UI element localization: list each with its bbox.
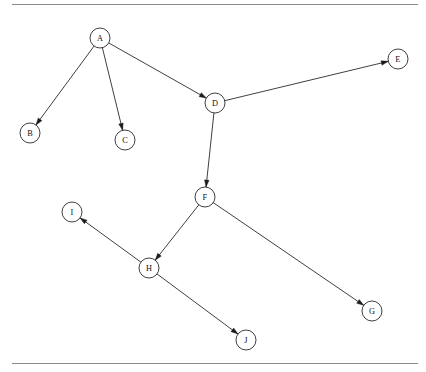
node-E[interactable]: E	[388, 49, 408, 69]
arrowhead-H-I	[80, 218, 87, 224]
edge-D-F	[206, 113, 214, 187]
node-label-B: B	[27, 129, 33, 138]
arrowhead-F-H	[155, 253, 161, 260]
arrowhead-F-G	[357, 300, 364, 306]
edge-A-D	[109, 43, 207, 98]
graph-svg: ABCDEFGHIJ	[0, 0, 426, 372]
node-label-J: J	[244, 336, 248, 345]
node-label-G: G	[369, 307, 375, 316]
node-J[interactable]: J	[236, 330, 256, 350]
node-label-E: E	[395, 55, 400, 64]
edge-A-B	[36, 46, 94, 125]
horizontal-rules-layer	[12, 5, 418, 364]
edge-F-G	[213, 203, 363, 306]
arrowhead-H-J	[231, 328, 238, 334]
nodes-layer: ABCDEFGHIJ	[20, 28, 408, 350]
arrowhead-A-C	[119, 123, 123, 130]
node-label-H: H	[146, 264, 152, 273]
edge-F-H	[155, 205, 199, 260]
node-I[interactable]: I	[62, 202, 82, 222]
diagram-canvas: ABCDEFGHIJ	[0, 0, 426, 372]
node-label-C: C	[122, 136, 128, 145]
node-label-I: I	[71, 208, 74, 217]
node-label-A: A	[97, 34, 103, 43]
edge-H-I	[80, 218, 141, 262]
arrowhead-D-E	[381, 61, 388, 65]
node-G[interactable]: G	[362, 301, 382, 321]
arrowhead-D-F	[205, 180, 210, 187]
node-C[interactable]: C	[115, 130, 135, 150]
node-A[interactable]: A	[90, 28, 110, 48]
node-label-F: F	[203, 193, 208, 202]
edge-D-E	[225, 61, 389, 100]
edge-A-C	[102, 48, 122, 131]
arrowhead-A-D	[199, 93, 206, 98]
edge-H-J	[157, 274, 238, 334]
node-label-D: D	[212, 99, 218, 108]
arrowhead-A-B	[36, 118, 42, 125]
node-D[interactable]: D	[205, 93, 225, 113]
node-H[interactable]: H	[139, 258, 159, 278]
node-F[interactable]: F	[195, 187, 215, 207]
edges-layer	[36, 43, 388, 334]
node-B[interactable]: B	[20, 123, 40, 143]
